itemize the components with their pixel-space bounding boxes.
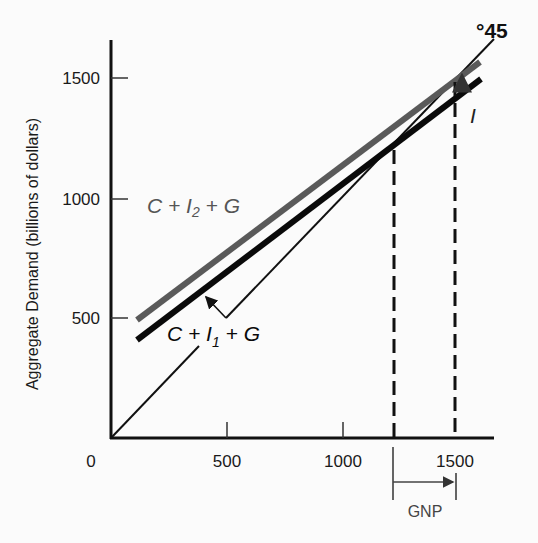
line-45-degree: [111, 39, 494, 438]
y-tick-label-500: 500: [72, 309, 100, 328]
x-tick-label-1000: 1000: [324, 452, 362, 471]
gnp-label: GNP: [408, 503, 443, 520]
deg45-label: °45: [476, 19, 508, 42]
y-axis-title: Aggregate Demand (billions of dollars): [24, 118, 41, 390]
y-tick-label-1000: 1000: [62, 190, 100, 209]
investment-label: I: [470, 104, 476, 127]
curve-c-i1-g-pointer: [206, 297, 226, 318]
x-tick-label-500: 500: [213, 452, 241, 471]
curve-c-i2-g-label: C + I2 + G: [147, 194, 240, 220]
x-tick-label-1500: 1500: [436, 452, 474, 471]
origin-label: 0: [86, 452, 95, 471]
curve-c-i2-g: [137, 62, 480, 320]
y-tick-label-1500: 1500: [62, 69, 100, 88]
aggregate-demand-chart: 1500 1000 500 0 500 1000 1500 Aggregate …: [0, 0, 538, 543]
curve-c-i1-g-label: C + I1 + G: [167, 322, 260, 350]
